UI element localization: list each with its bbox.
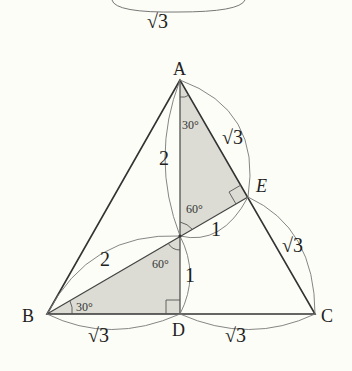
angle-label-O-lower: 60° xyxy=(152,257,169,271)
length-label-EC: √3 xyxy=(282,234,303,256)
point-O xyxy=(178,234,181,237)
length-label-OE: 1 xyxy=(211,218,221,240)
geometry-figure: √3 A B C D E 2 √3 1 √3 2 1 √3 √3 30° 60°… xyxy=(0,0,352,371)
vertex-label-B: B xyxy=(22,306,34,326)
arc-BD xyxy=(47,314,180,330)
length-label-AE: √3 xyxy=(222,126,243,148)
vertex-label-C: C xyxy=(321,306,333,326)
length-label-AO: 2 xyxy=(159,147,169,169)
length-label-BO: 2 xyxy=(100,248,110,270)
top-length-arc xyxy=(112,0,245,12)
length-label-OD: 1 xyxy=(185,264,195,286)
vertex-label-A: A xyxy=(173,59,186,79)
length-label-DC: √3 xyxy=(225,324,246,346)
vertex-label-D: D xyxy=(172,320,185,340)
top-length-label: √3 xyxy=(147,10,168,32)
vertex-label-E: E xyxy=(255,176,267,196)
angle-label-A: 30° xyxy=(182,118,199,132)
length-label-BD: √3 xyxy=(88,324,109,346)
arc-DC xyxy=(180,314,315,330)
angle-label-O-upper: 60° xyxy=(186,202,203,216)
angle-label-B: 30° xyxy=(76,300,93,314)
